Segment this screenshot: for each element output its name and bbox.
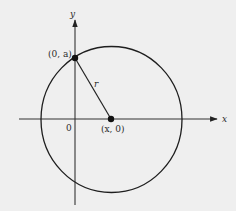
point-label-center: (x, 0) [101, 124, 125, 134]
y-axis-label: y [69, 9, 76, 19]
point-label-y-intercept: (0, a) [48, 49, 72, 59]
x-axis-label: x [222, 114, 227, 124]
circle-diagram: y x 0 (0, a) (x, 0) r [0, 0, 236, 211]
origin-label: 0 [66, 123, 72, 133]
point-center [108, 116, 114, 122]
point-y-intercept [72, 55, 78, 61]
radius-segment [75, 58, 111, 119]
radius-label: r [94, 79, 99, 89]
